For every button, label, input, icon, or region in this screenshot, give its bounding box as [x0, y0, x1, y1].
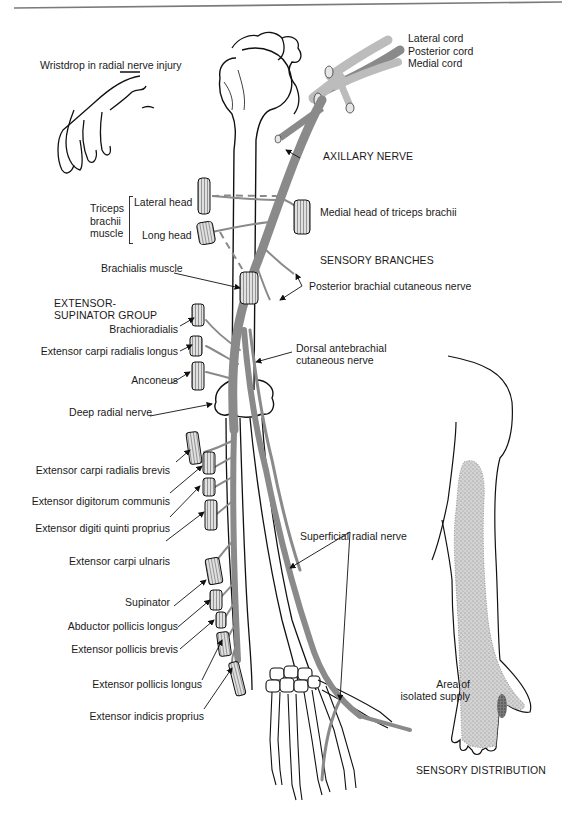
sensory-stipple-area	[454, 461, 524, 748]
label-triceps-line2: brachii	[90, 215, 121, 227]
label-triceps-line1: Triceps	[90, 202, 124, 214]
label-ext-pollicis-longus: Extensor pollicis longus	[92, 678, 202, 690]
label-brachioradialis: Brachioradialis	[109, 323, 178, 335]
isolated-supply-area	[497, 694, 507, 718]
label-medial-head: Medial head of triceps brachii	[320, 206, 457, 218]
label-ecr-longus: Extensor carpi radialis longus	[41, 345, 178, 357]
wristdrop-title: Wristdrop in radial nerve injury	[40, 59, 182, 71]
label-ext-pollicis-brevis: Extensor pollicis brevis	[71, 643, 178, 655]
label-posterior-brachial: Posterior brachial cutaneous nerve	[309, 280, 471, 292]
label-medial-cord: Medial cord	[408, 57, 462, 69]
plexus-cords	[314, 40, 400, 113]
label-sensory-distribution: SENSORY DISTRIBUTION	[416, 764, 546, 776]
wristdrop-hand	[58, 72, 154, 173]
top-rule	[14, 2, 562, 8]
label-extensor-group-line1: EXTENSOR-	[54, 297, 116, 309]
label-dorsal-antebrachial-line1: Dorsal antebrachial	[296, 342, 386, 354]
label-axillary-nerve: AXILLARY NERVE	[323, 150, 413, 162]
label-long-head: Long head	[142, 229, 192, 241]
triceps-bracket	[129, 196, 133, 244]
radial-nerve-diagram: Wristdrop in radial nerve injury Lateral…	[0, 0, 566, 819]
label-isolated-line1: Area of	[436, 678, 470, 690]
label-ext-indicis-proprius: Extensor indicis proprius	[90, 710, 204, 722]
label-posterior-cord: Posterior cord	[408, 45, 473, 57]
label-lateral-cord: Lateral cord	[408, 32, 463, 44]
label-ecr-brevis: Extensor carpi radialis brevis	[36, 464, 170, 476]
label-anconeus: Anconeus	[131, 374, 178, 386]
label-triceps-line3: muscle	[90, 227, 123, 239]
label-dorsal-antebrachial-line2: cutaneous nerve	[296, 354, 374, 366]
label-extensor-group-line2: SUPINATOR GROUP	[54, 309, 157, 321]
label-lateral-head: Lateral head	[134, 196, 192, 208]
label-ed-quinti: Extensor digiti quinti proprius	[35, 522, 170, 534]
label-ec-ulnaris: Extensor carpi ulnaris	[69, 555, 170, 567]
label-sensory-branches: SENSORY BRANCHES	[320, 254, 434, 266]
label-supinator: Supinator	[125, 596, 170, 608]
label-abd-pollicis-longus: Abductor pollicis longus	[68, 620, 178, 632]
radial-nerve-trunk	[233, 100, 322, 430]
label-ed-communis: Extensor digitorum communis	[32, 495, 170, 507]
label-brachialis: Brachialis muscle	[101, 262, 183, 274]
label-isolated-line2: isolated supply	[401, 690, 470, 702]
label-deep-radial-nerve: Deep radial nerve	[69, 406, 152, 418]
label-superficial-radial: Superficial radial nerve	[300, 530, 407, 542]
